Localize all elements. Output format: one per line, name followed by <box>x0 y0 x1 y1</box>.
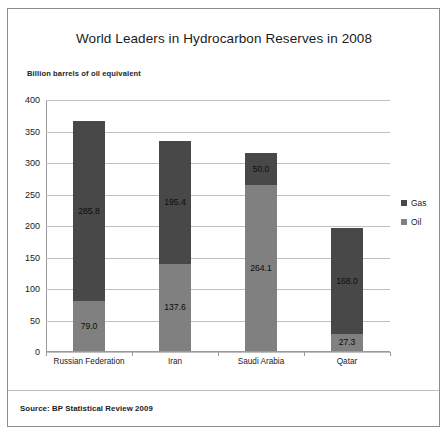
chart-title: World Leaders in Hydrocarbon Reserves in… <box>0 31 448 46</box>
bar-value-label: 137.6 <box>164 303 186 312</box>
bar-value-label: 285.8 <box>78 207 100 216</box>
y-axis-tick-label: 350 <box>25 127 40 137</box>
legend-item-gas[interactable]: Gas <box>401 198 445 208</box>
bar-value-label: 27.3 <box>339 338 356 347</box>
chart-screenshot: World Leaders in Hydrocarbon Reserves in… <box>0 0 448 435</box>
bar-segment-gas[interactable]: 285.8 <box>73 121 105 301</box>
bar-value-label: 168.0 <box>336 277 358 286</box>
y-axis-tick-label: 0 <box>35 347 40 357</box>
bar-segment-oil[interactable]: 137.6 <box>159 264 191 351</box>
legend-label: Oil <box>411 217 421 227</box>
x-axis-category-label: Russian Federation <box>46 356 132 367</box>
bar-value-label: 79.0 <box>81 322 98 331</box>
x-axis-category-label: Saudi Arabia <box>218 356 304 367</box>
chart-legend: GasOil <box>401 198 445 236</box>
y-axis-tick-label: 150 <box>25 253 40 263</box>
y-axis-tick-label: 250 <box>25 190 40 200</box>
y-axis-tick-label: 50 <box>30 316 40 326</box>
gridline <box>46 100 390 101</box>
bar-stack[interactable]: 195.4137.6 <box>159 141 191 351</box>
plot-area: 400350300250200150100500 285.879.0195.41… <box>46 100 390 352</box>
source-note: Source: BP Statistical Review 2009 <box>20 404 153 413</box>
legend-swatch-icon <box>401 219 407 225</box>
source-divider <box>8 390 439 391</box>
legend-label: Gas <box>411 198 426 208</box>
x-axis-category-label: Iran <box>132 356 218 367</box>
legend-item-oil[interactable]: Oil <box>401 217 445 227</box>
x-axis-category-label: Qatar <box>304 356 390 367</box>
y-axis-unit-label: Billion barrels of oil equivalent <box>27 69 141 78</box>
y-axis-tick-label: 100 <box>25 284 40 294</box>
bar-value-label: 264.1 <box>250 264 272 273</box>
x-axis-tick <box>390 352 391 356</box>
bar-stack[interactable]: 168.027.3 <box>331 228 363 351</box>
bar-value-label: 50.0 <box>253 165 270 174</box>
bar-stack[interactable]: 50.0264.1 <box>245 153 277 351</box>
legend-swatch-icon <box>401 200 407 206</box>
bar-segment-oil[interactable]: 27.3 <box>331 334 363 351</box>
y-axis-tick-label: 300 <box>25 158 40 168</box>
y-axis-tick-label: 400 <box>25 95 40 105</box>
bar-segment-gas[interactable]: 195.4 <box>159 141 191 264</box>
bar-segment-oil[interactable]: 264.1 <box>245 185 277 351</box>
bar-segment-oil[interactable]: 79.0 <box>73 301 105 351</box>
y-axis-tick-label: 200 <box>25 221 40 231</box>
bar-segment-gas[interactable]: 50.0 <box>245 153 277 185</box>
bar-value-label: 195.4 <box>164 198 186 207</box>
bar-segment-gas[interactable]: 168.0 <box>331 228 363 334</box>
bar-stack[interactable]: 285.879.0 <box>73 121 105 351</box>
